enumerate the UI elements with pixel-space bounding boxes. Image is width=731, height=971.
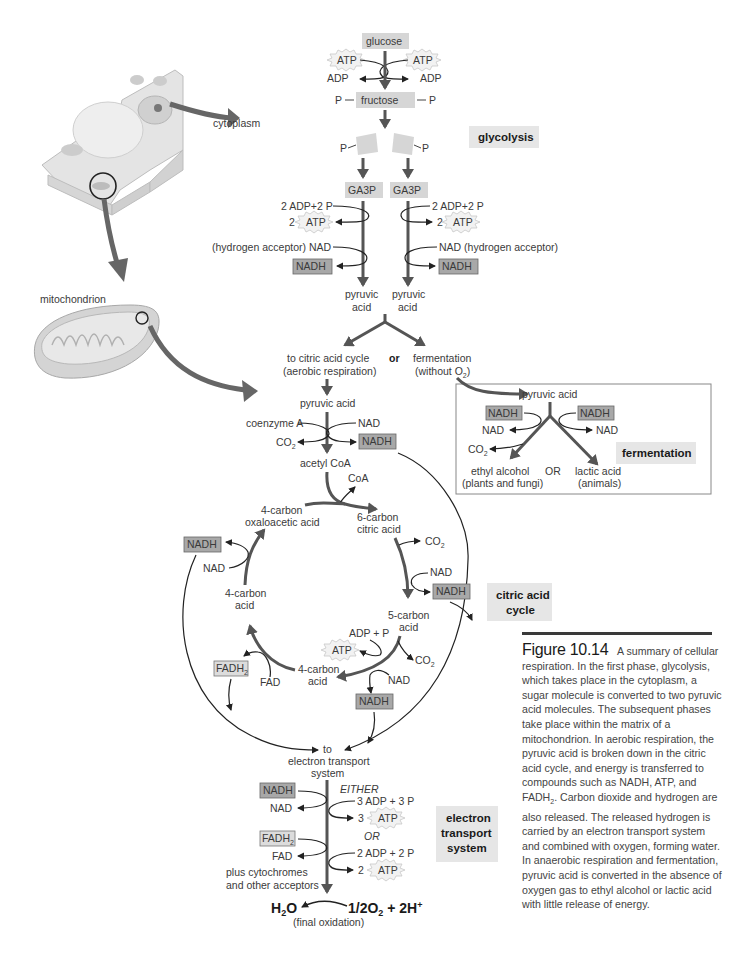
ethyl-alcohol-2: (plants and fungi) (462, 477, 543, 489)
adp-2p-right: 2 ADP+2 P (432, 200, 484, 212)
fermentation-nadh-right: NADH (580, 407, 610, 419)
citric-atp: ATP (332, 644, 352, 656)
ets-section-label-1: electron (446, 812, 491, 824)
ets-atp-2: ATP (378, 864, 398, 876)
fermentation-line-1: fermentation (413, 352, 472, 364)
ets-cytochromes-1: plus cytochromes (226, 866, 308, 878)
pyruvic-left-2: acid (352, 301, 371, 313)
ets-section-label-3: system (447, 842, 487, 854)
five-carbon-2: acid (399, 621, 418, 633)
fermentation-nad-right: NAD (596, 424, 619, 436)
ets-nad: NAD (270, 802, 293, 814)
ets-section-label-2: transport (441, 827, 492, 839)
citric-co2-2: CO2 (425, 535, 445, 549)
caption-text-2: . Carbon dioxide and hydrogen are also r… (522, 791, 722, 910)
pyruvic-right-2: acid (398, 301, 417, 313)
fermentation-or: OR (545, 465, 561, 477)
lactic-acid-2: (animals) (578, 477, 621, 489)
fermentation-pyruvic-acid: pyruvic acid (522, 388, 578, 400)
coenzyme-a: coenzyme A (246, 417, 303, 429)
to-ets-1: to (323, 743, 332, 755)
adp-2p-left: 2 ADP+2 P (281, 200, 333, 212)
p-left: P (335, 94, 342, 106)
ets-cytochromes-2: and other acceptors (226, 879, 319, 891)
fermentation-section-label: fermentation (622, 447, 692, 459)
ets-2adp: 2 ADP + 2 P (357, 847, 414, 859)
ets-two: 2 (358, 864, 364, 876)
lactic-acid-1: lactic acid (575, 465, 621, 477)
ets-or: OR (364, 830, 380, 842)
glycolysis-section-label: glycolysis (478, 131, 534, 143)
branch-or: or (389, 352, 400, 364)
four-carbon-left-2: acid (235, 599, 254, 611)
ets-atp-1: ATP (378, 812, 398, 824)
mitochondrion-illustration (34, 305, 159, 378)
ets-fad: FAD (272, 850, 293, 862)
pyruvic-left-1: pyruvic (345, 288, 378, 300)
acetyl-coa: acetyl CoA (300, 457, 351, 469)
fermentation-line-2: (without O2) (415, 365, 470, 379)
p-left-2: P (340, 142, 347, 154)
figure-number: Figure 10.14 (522, 641, 608, 658)
four-carbon-bottom-1: 4-carbon (298, 663, 340, 675)
citric-co2-1: CO2 (276, 436, 296, 450)
ethyl-alcohol-1: ethyl alcohol (471, 465, 529, 477)
mitochondrion-label: mitochondrion (40, 293, 106, 305)
atp-left-2: ATP (306, 216, 326, 228)
citric-section-label-1: citric acid (496, 589, 550, 601)
figure-caption: Figure 10.14 A summary of cellular respi… (522, 632, 722, 912)
nad-hydrogen-acceptor-left: (hydrogen acceptor) NAD (212, 241, 331, 253)
pyruvic-right-1: pyruvic (392, 288, 425, 300)
caption-text-1: A summary of cellular respiration. In th… (522, 645, 722, 803)
adp-p: ADP + P (349, 627, 389, 639)
to-ets-3: system (311, 767, 345, 779)
plant-cell-illustration (42, 70, 183, 215)
citric-nad-3: NAD (388, 674, 411, 686)
triose-right (392, 133, 414, 155)
five-carbon-1: 5-carbon (388, 609, 430, 621)
atp-right-2: ATP (453, 216, 473, 228)
ets-nadh: NADH (263, 784, 293, 796)
atp-right: ATP (413, 54, 433, 66)
citric-acid-1: 6-carbon (357, 511, 399, 523)
p-right: P (429, 94, 436, 106)
to-ets-2: electron transport (288, 755, 370, 767)
four-carbon-bottom-2: acid (308, 675, 327, 687)
aerobic-line-2: (aerobic respiration) (283, 365, 376, 377)
glucose-label: glucose (366, 35, 402, 47)
citric-nadh-4: NADH (187, 538, 217, 550)
atp-left: ATP (337, 54, 357, 66)
cytoplasm-label: cytoplasm (213, 117, 261, 129)
citric-nadh-2: NADH (436, 585, 466, 597)
triose-left (356, 133, 378, 155)
citric-co2-3: CO2 (415, 654, 435, 668)
ets-either: EITHER (340, 783, 379, 795)
fermentation-nad-left: NAD (482, 424, 505, 436)
citric-nad-1: NAD (358, 417, 381, 429)
citric-pyruvic-acid: pyruvic acid (300, 397, 356, 409)
fermentation-nadh-left: NADH (488, 407, 518, 419)
citric-nad-4: NAD (203, 562, 226, 574)
final-oxidation: (final oxidation) (293, 916, 364, 928)
citric-nadh-1: NADH (362, 435, 392, 447)
ets-3adp: 3 ADP + 3 P (357, 795, 414, 807)
nad-hydrogen-acceptor-right: NAD (hydrogen acceptor) (439, 241, 558, 253)
four-carbon-left-1: 4-carbon (225, 587, 267, 599)
p-right-2: P (422, 142, 429, 154)
citric-nadh-3: NADH (359, 695, 389, 707)
citric-acid-2: citric acid (357, 523, 401, 535)
citric-fadh2: FADH2 (216, 662, 248, 676)
nadh-right: NADH (442, 260, 472, 272)
adp-left: ADP (327, 72, 349, 84)
citric-nad-2: NAD (430, 566, 453, 578)
ga3p-left: GA3P (348, 184, 376, 196)
citric-section-label-2: cycle (506, 604, 535, 616)
matrix-arrow (150, 326, 245, 390)
nadh-left: NADH (296, 260, 326, 272)
fructose-label: fructose (361, 94, 399, 106)
ets-three: 3 (358, 812, 364, 824)
fad: FAD (260, 676, 281, 688)
caption-rule (522, 632, 712, 635)
caption-body: Figure 10.14 A summary of cellular respi… (522, 643, 722, 912)
aerobic-line-1: to citric acid cycle (287, 352, 369, 364)
